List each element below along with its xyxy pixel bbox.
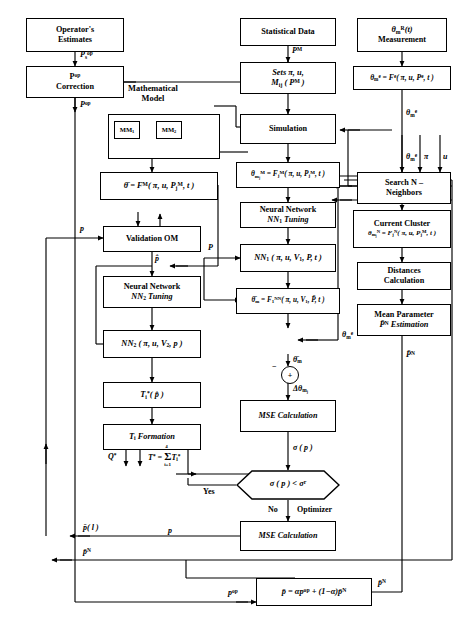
node-nn2-block[interactable]: NN2 ( π, u, V2, p ) bbox=[103, 330, 201, 358]
node-ti-formation[interactable]: Ti Formation bbox=[103, 424, 201, 450]
pop-correction-line2: Correction bbox=[56, 82, 94, 92]
ti-formation-label: Ti Formation bbox=[129, 432, 175, 442]
node-t-star-i[interactable]: Ti*( p̂ ) bbox=[103, 382, 201, 408]
t-star-i-formula: Ti*( p̂ ) bbox=[140, 390, 164, 401]
distances-calc-line2: Calculation bbox=[384, 276, 425, 286]
nn1-block-formula: NN1 ( π, u, V1, P, t ) bbox=[254, 253, 322, 263]
mean-parameter-line1: Mean Parameter bbox=[374, 310, 433, 320]
node-mse-calculation-2[interactable]: MSE Calculation bbox=[240, 521, 336, 551]
decision-label: σ ( p ) < σr bbox=[236, 479, 340, 488]
mean-parameter-line2: P̄N Estimation bbox=[379, 320, 428, 330]
edge-label-p-bar-n-bottom: p̄N bbox=[378, 578, 386, 587]
nn1-tuning-line1: Neural Network bbox=[260, 205, 317, 215]
summing-junction: + bbox=[281, 366, 299, 384]
mm1-label: MM1 bbox=[120, 126, 135, 134]
theta-bar-m-nn-formula: θ̄m = F1NN( π, u, V1, P̄, t ) bbox=[251, 296, 324, 305]
distances-calc-line1: Distances bbox=[387, 266, 420, 276]
theta-bar-model-formula: θ̄ = FM( π, u, PjM, t ) bbox=[124, 181, 195, 192]
edge-label-no: No bbox=[268, 505, 278, 514]
mm2-label: MM2 bbox=[162, 126, 177, 134]
t-star-sum-upper: 4 bbox=[165, 444, 168, 449]
edge-label-pop-s: Psop bbox=[80, 50, 93, 60]
edge-label-theta-m-e-1: θme bbox=[406, 108, 417, 118]
node-validation-om[interactable]: Validation OM bbox=[103, 226, 201, 252]
statistical-data-label: Statistical Data bbox=[261, 27, 314, 37]
edge-label-p-hat: p̂ bbox=[155, 254, 159, 263]
edge-label-pi: π bbox=[424, 152, 428, 161]
edge-label-sigma-p: σ ( p ) bbox=[293, 443, 313, 452]
operator-estimates-line2: Estimates bbox=[58, 35, 92, 45]
node-theta-measurement[interactable]: θmR(t) Measurement bbox=[357, 18, 447, 52]
node-theta-bar-model[interactable]: θ̄ = FM( π, u, PjM, t ) bbox=[100, 172, 218, 200]
pop-correction-line1: Pop bbox=[70, 72, 81, 82]
nn2-tuning-line1: Neural Network bbox=[124, 282, 181, 292]
node-current-cluster[interactable]: Current Cluster θmjN = FjN( π, u, PjM, t… bbox=[353, 210, 451, 248]
edge-label-pm-top: PM bbox=[292, 46, 302, 55]
edge-label-q-star: Q* bbox=[108, 452, 117, 461]
final-blend-formula: p̄ = αpop + (1−α)p̄N bbox=[282, 587, 347, 597]
node-mm1[interactable]: MM1 bbox=[114, 121, 140, 139]
node-distances-calculation[interactable]: Distances Calculation bbox=[357, 262, 451, 290]
nn2-block-formula: NN2 ( π, u, V2, p ) bbox=[121, 339, 182, 349]
edge-label-pop-1: Pop bbox=[80, 100, 91, 109]
edge-label-p-bar-n-right: P̄N bbox=[406, 350, 415, 359]
node-final-blend[interactable]: p̄ = αpop + (1−α)p̄N bbox=[256, 578, 372, 606]
edge-label-p-left-bottom: p bbox=[168, 526, 172, 535]
edge-label-theta-m-e-2: θme bbox=[406, 152, 417, 162]
node-nn1-tuning[interactable]: Neural Network NN1 Tuning bbox=[240, 202, 336, 228]
simulation-label: Simulation bbox=[269, 124, 307, 134]
mse-calc-2-label: MSE Calculation bbox=[259, 531, 318, 541]
edge-label-delta-theta: Δθmj bbox=[293, 384, 308, 394]
mse-calc-1-label: MSE Calculation bbox=[259, 411, 318, 421]
sets-line1: Sets π, u, bbox=[272, 68, 304, 78]
search-neighbors-line1: Search N – bbox=[385, 178, 423, 188]
edge-label-p-bar-l: p̄( l ) bbox=[83, 523, 99, 532]
edge-label-theta-bar-m: θ̄m bbox=[293, 355, 302, 364]
current-cluster-line2: θmjN = FjN( π, u, PjM, t ) bbox=[368, 229, 436, 239]
node-search-neighbors[interactable]: Search N – Neighbors bbox=[357, 172, 451, 204]
node-operator-estimates[interactable]: Operator's Estimates bbox=[26, 18, 124, 52]
theta-e-formula: θme = Fe( π, u, Pe, t ) bbox=[370, 73, 434, 83]
validation-om-label: Validation OM bbox=[126, 234, 178, 244]
edge-label-theta-m-e-3: θme bbox=[342, 330, 353, 340]
summing-junction-minus: − bbox=[272, 362, 277, 371]
math-model-title-line2: Model bbox=[142, 94, 165, 103]
node-mm2[interactable]: MM2 bbox=[156, 121, 182, 139]
theta-measurement-line1: θmR(t) bbox=[391, 25, 412, 36]
edge-label-yes: Yes bbox=[203, 487, 215, 496]
math-model-title-line1: Mathematical bbox=[128, 84, 178, 93]
node-mean-parameter[interactable]: Mean Parameter P̄N Estimation bbox=[357, 304, 451, 336]
edge-label-p-nn1: P bbox=[208, 243, 213, 252]
node-theta-bar-m-nn[interactable]: θ̄m = F1NN( π, u, V1, P̄, t ) bbox=[236, 288, 340, 314]
current-cluster-line1: Current Cluster bbox=[374, 219, 430, 229]
node-nn2-tuning[interactable]: Neural Network NN2 Tuning bbox=[103, 276, 201, 308]
flowchart-canvas: Operator's Estimates Pop Correction Math… bbox=[0, 0, 463, 634]
node-simulation[interactable]: Simulation bbox=[240, 114, 336, 144]
t-star-sum-prefix: T* = bbox=[148, 453, 164, 462]
node-nn1-block[interactable]: NN1 ( π, u, V1, P, t ) bbox=[240, 244, 336, 272]
theta-measurement-line2: Measurement bbox=[378, 35, 426, 45]
math-model-title: Mathematical Model bbox=[108, 84, 198, 103]
sets-line2: Mij ( PM ) bbox=[271, 78, 304, 89]
edge-label-pop-bottom: pop bbox=[228, 588, 238, 597]
node-theta-e[interactable]: θme = Fe( π, u, Pe, t ) bbox=[353, 66, 451, 90]
summing-junction-plus: + bbox=[288, 371, 293, 380]
edge-label-p-validation: p bbox=[80, 224, 84, 233]
edge-label-optimizer: Optimizer bbox=[297, 505, 332, 514]
nn1-tuning-line2: NN1 Tuning bbox=[267, 215, 308, 225]
node-statistical-data[interactable]: Statistical Data bbox=[240, 18, 336, 46]
t-star-sum-suffix: Ti* bbox=[171, 453, 180, 462]
search-neighbors-line2: Neighbors bbox=[386, 188, 422, 198]
edge-label-u: u bbox=[443, 152, 447, 161]
t-star-sum-lower: i=1 bbox=[164, 462, 171, 467]
edge-label-p-bar-n-left: p̄N bbox=[83, 547, 91, 556]
operator-estimates-line1: Operator's bbox=[56, 25, 94, 35]
edge-label-t-star-sum: T* = 4Σi=1Ti* bbox=[148, 450, 181, 462]
theta-m-model-formula: θmjM = FjM( π, u, PjM, t ) bbox=[251, 170, 325, 179]
nn2-tuning-line2: NN2 Tuning bbox=[131, 292, 172, 302]
node-mse-calculation-1[interactable]: MSE Calculation bbox=[240, 400, 336, 432]
node-sets[interactable]: Sets π, u, Mij ( PM ) bbox=[240, 62, 336, 94]
node-theta-m-model[interactable]: θmjM = FjM( π, u, PjM, t ) bbox=[236, 162, 340, 188]
